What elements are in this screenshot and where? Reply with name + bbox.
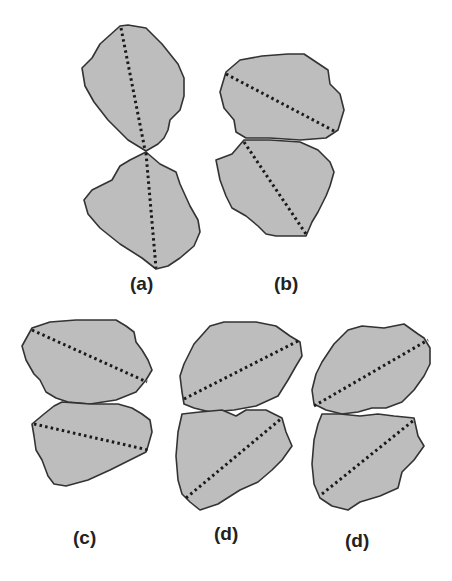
panel-label-d1: (d) bbox=[214, 523, 238, 545]
panel-label-d2: (d) bbox=[345, 530, 369, 552]
grain-b-bottom bbox=[216, 140, 334, 236]
grain-a-top bbox=[82, 25, 184, 151]
grains-diagram bbox=[0, 0, 452, 581]
panel-label-c: (c) bbox=[73, 527, 96, 549]
panel-d1 bbox=[176, 322, 302, 510]
grain-d2-bottom bbox=[312, 414, 424, 510]
panel-a bbox=[82, 25, 200, 269]
grain-b-top bbox=[220, 54, 344, 140]
panel-c bbox=[22, 320, 152, 486]
grain-d1-top bbox=[180, 322, 302, 412]
grain-c-bottom bbox=[32, 402, 152, 486]
panel-label-a: (a) bbox=[130, 273, 153, 295]
grain-c-top bbox=[22, 320, 152, 404]
panel-b bbox=[216, 54, 344, 236]
figure-canvas: (a) (b) (c) (d) (d) bbox=[0, 0, 452, 581]
grain-a-bottom bbox=[84, 152, 200, 269]
panel-d2 bbox=[312, 324, 430, 510]
grain-d2-top bbox=[312, 324, 430, 414]
panel-label-b: (b) bbox=[274, 273, 298, 295]
